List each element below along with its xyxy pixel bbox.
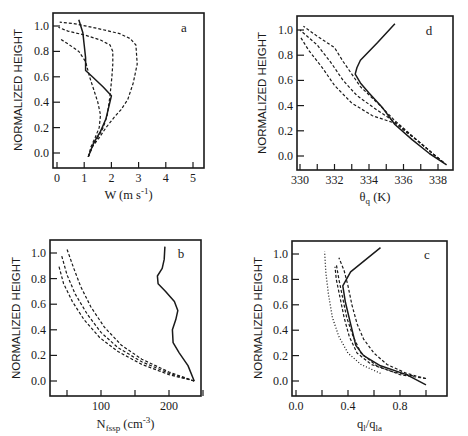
- series-model-3: [60, 39, 101, 157]
- series-group: [58, 20, 137, 157]
- x-tick-label: 336: [395, 173, 413, 187]
- plot-frame: [53, 13, 204, 168]
- y-tick-label: 0.2: [273, 349, 288, 363]
- series-model-1: [67, 249, 194, 381]
- y-tick-label: 0.4: [34, 95, 49, 109]
- series-model-3: [300, 36, 443, 162]
- x-tick-label: 4: [163, 171, 169, 185]
- x-tick-label: 2: [108, 171, 114, 185]
- y-tick-label: 0.6: [273, 298, 288, 312]
- series-group: [300, 24, 447, 165]
- x-tick-label: 1: [81, 171, 87, 185]
- x-axis-label: W (m s-1): [104, 186, 152, 202]
- y-tick-label: 1.0: [34, 19, 49, 33]
- x-tick-label: 334: [360, 173, 378, 187]
- series-model-2: [58, 27, 112, 157]
- y-tick-label: 0.6: [34, 70, 49, 84]
- x-tick-label: 338: [429, 173, 447, 187]
- y-tick-label: 0.8: [31, 272, 46, 286]
- y-tick-label: 1.0: [31, 246, 46, 260]
- x-tick-label: 0.8: [393, 399, 408, 413]
- x-tick-label: 0.0: [289, 399, 304, 413]
- figure-canvas: 0.00.20.40.60.81.0012345NORMALIZED HEIGH…: [0, 0, 468, 436]
- x-tick-label: 330: [291, 173, 309, 187]
- y-tick-label: 0.4: [31, 323, 46, 337]
- y-axis-label: NORMALIZED HEIGHT: [12, 29, 24, 151]
- x-tick-label: 332: [326, 173, 344, 187]
- x-tick-label: 0.4: [341, 399, 356, 413]
- y-axis-label: NORMALIZED HEIGHT: [256, 32, 268, 154]
- x-tick-label: 200: [160, 399, 178, 413]
- series-group: [59, 247, 194, 381]
- x-axis-label: θq (K): [360, 190, 391, 206]
- y-tick-label: 0.2: [278, 124, 293, 138]
- series-group: [325, 248, 426, 385]
- y-tick-label: 0.2: [31, 348, 46, 362]
- x-axis-label: Nfssp (cm-3): [97, 415, 155, 433]
- y-tick-label: 0.0: [273, 374, 288, 388]
- y-tick-label: 0.0: [31, 374, 46, 388]
- y-tick-label: 0.2: [34, 121, 49, 135]
- x-axis-label: ql/qla: [357, 417, 382, 433]
- panel-a: 0.00.20.40.60.81.0012345NORMALIZED HEIGH…: [12, 13, 204, 202]
- panel-d: 0.00.20.40.60.81.0330332334336338NORMALI…: [256, 16, 453, 206]
- figure: 0.00.20.40.60.81.0012345NORMALIZED HEIGH…: [0, 0, 468, 436]
- y-tick-label: 0.4: [273, 323, 288, 337]
- y-tick-label: 0.8: [278, 48, 293, 62]
- plot-frame: [292, 241, 447, 396]
- series-model-2: [62, 256, 195, 381]
- x-tick-label: 100: [92, 399, 110, 413]
- panel-letter: b: [178, 246, 185, 261]
- y-tick-label: 0.8: [34, 44, 49, 58]
- y-tick-label: 0.8: [273, 272, 288, 286]
- plot-frame: [297, 16, 453, 170]
- panel-c: 0.00.20.40.60.81.00.00.40.8NORMALIZED HE…: [252, 241, 447, 433]
- y-tick-label: 0.0: [278, 149, 293, 163]
- y-tick-label: 1.0: [273, 247, 288, 261]
- x-tick-label: 0: [54, 171, 60, 185]
- y-tick-label: 1.0: [278, 23, 293, 37]
- y-axis-label: NORMALIZED HEIGHT: [252, 257, 264, 379]
- series-model-1: [339, 258, 426, 379]
- y-tick-label: 0.6: [31, 297, 46, 311]
- panel-letter: d: [426, 23, 433, 38]
- panel-b: 0.00.20.40.60.81.0100200NORMALIZED HEIGH…: [10, 240, 203, 433]
- panel-letter: c: [424, 247, 430, 262]
- x-tick-label: 3: [136, 171, 142, 185]
- panel-letter: a: [181, 20, 187, 35]
- y-tick-label: 0.6: [278, 73, 293, 87]
- x-tick-label: 5: [190, 171, 196, 185]
- series-observed: [157, 247, 194, 381]
- y-tick-label: 0.0: [34, 146, 49, 160]
- y-tick-label: 0.4: [278, 99, 293, 113]
- y-axis-label: NORMALIZED HEIGHT: [10, 257, 22, 379]
